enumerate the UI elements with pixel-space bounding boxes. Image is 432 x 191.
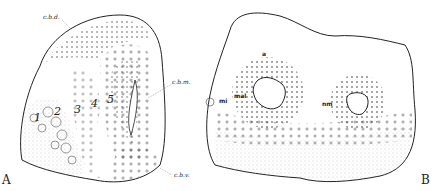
label-mal: mal xyxy=(234,93,246,99)
label-cbd: c.b.d. xyxy=(43,14,60,20)
label-region-4: 4 xyxy=(91,98,98,109)
panel-b-letter: B xyxy=(421,174,430,186)
label-a: a xyxy=(262,51,266,57)
illustration-canvas xyxy=(0,0,432,191)
label-mi: mi xyxy=(219,98,227,104)
panel-a-letter: A xyxy=(2,174,11,186)
label-nm: nm xyxy=(322,101,333,107)
label-cbm: c.b.m. xyxy=(172,79,191,85)
label-region-2: 2 xyxy=(54,106,61,117)
label-cbv: c.b.v. xyxy=(174,172,190,178)
label-region-3: 3 xyxy=(74,104,81,115)
label-region-1: 1 xyxy=(34,112,41,123)
label-region-5: 5 xyxy=(107,94,114,105)
